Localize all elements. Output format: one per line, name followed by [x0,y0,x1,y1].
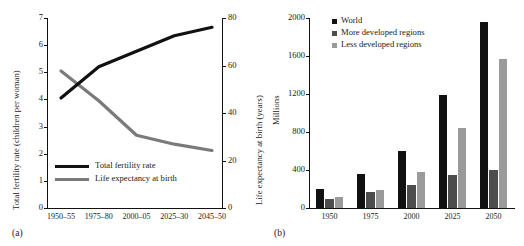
ytick-b [306,208,309,209]
ytick-label-right-a: 80 [228,12,248,22]
panel-label-a: (a) [12,228,23,238]
legend-label-b: World [341,15,362,25]
ytick-b [306,170,309,171]
legend-label-b: More developed regions [341,27,425,37]
xtick-label-a: 2045–50 [186,212,238,221]
xtick-label-b: 2050 [468,212,520,221]
line-series-group-a [47,18,224,210]
bar [417,172,426,208]
bar [357,174,366,208]
chart-panel-b: Millions (b) WorldMore developed regions… [262,0,524,246]
bar [480,22,489,208]
axis-title-millions: Millions [271,95,281,125]
bar [489,170,498,208]
bar [325,199,334,208]
ytick-b [306,132,309,133]
ytick-label-left-a: 2 [25,148,43,158]
ytick-label-b: 1200 [279,88,305,98]
axis-title-fertility: Total fertility rate (children per woman… [11,70,21,210]
ytick-label-b: 400 [279,164,305,174]
ytick-label-left-a: 0 [25,202,43,212]
ytick-label-left-a: 1 [25,175,43,185]
bar [499,59,508,208]
ytick-b [306,56,309,57]
ytick-label-left-a: 5 [25,66,43,76]
legend-swatch-b [332,19,337,24]
bar [407,185,416,208]
bar [376,190,385,208]
ytick-b [306,18,309,19]
bar [439,95,448,208]
bar [398,151,407,209]
ytick-label-b: 800 [279,126,305,136]
ytick-label-right-a: 40 [228,107,248,117]
ytick-label-right-a: 0 [228,202,248,212]
ytick-label-right-a: 60 [228,60,248,70]
bar [448,175,457,208]
line-total-fertility-rate [61,71,212,151]
ytick-label-right-a: 20 [228,155,248,165]
chart-panel-a: Total fertility rate (children per woman… [0,0,262,246]
ytick-label-b: 0 [279,202,305,212]
ytick-label-left-a: 7 [25,12,43,22]
bar [458,128,467,208]
axis-bottom-b [309,208,515,209]
axis-left-b [309,18,310,209]
legend-swatch-b [332,43,337,48]
ytick-b [306,94,309,95]
ytick-label-left-a: 3 [25,121,43,131]
ytick-label-b: 1600 [279,50,305,60]
bar [316,189,325,209]
ytick-label-b: 2000 [279,12,305,22]
ytick-label-left-a: 6 [25,39,43,49]
legend-label-b: Less developed regions [341,39,422,49]
panel-label-b: (b) [274,228,285,238]
bar [366,192,375,208]
figure-root: Total fertility rate (children per woman… [0,0,524,246]
legend-swatch-b [332,31,337,36]
bar [335,197,344,208]
ytick-label-left-a: 4 [25,93,43,103]
